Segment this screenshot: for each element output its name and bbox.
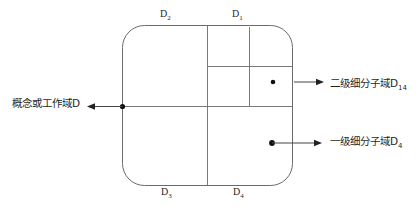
quadrant-label-d1-sub: 1 <box>239 14 243 22</box>
annotation-first-level-subdomain-text: 一级细分子域D <box>330 135 398 147</box>
annotation-first-level-subdomain-sub: 4 <box>398 142 402 150</box>
second-level-subdomain-arrowhead <box>316 79 324 86</box>
quadrant-label-d4: D4 <box>233 186 244 202</box>
working-domain-arrowhead <box>87 103 95 110</box>
annotation-second-level-subdomain-text: 二级细分子域D <box>330 77 398 89</box>
annotation-second-level-subdomain: 二级细分子域D14 <box>330 78 407 94</box>
first-level-subdomain-arrowhead <box>314 140 322 147</box>
annotation-working-domain-text: 概念或工作域D <box>12 97 80 109</box>
annotation-working-domain: 概念或工作域D <box>12 98 80 114</box>
quadrant-label-d3-sub: 3 <box>168 192 172 200</box>
quadrant-label-d2: D2 <box>160 8 171 24</box>
annotation-second-level-subdomain-sub: 14 <box>398 84 407 92</box>
quadrant-label-d1: D1 <box>232 8 243 24</box>
quadrant-label-d3: D3 <box>161 186 172 202</box>
diagram-canvas: D2 D1 D3 D4 概念或工作域D 二级细分子域D14 一级细分子域D4 <box>0 0 418 212</box>
second-level-subdomain-anchor-dot <box>271 80 276 85</box>
quadrant-label-d4-sub: 4 <box>240 192 244 200</box>
quadrant-label-d2-sub: 2 <box>167 14 171 22</box>
annotation-first-level-subdomain: 一级细分子域D4 <box>330 136 403 152</box>
